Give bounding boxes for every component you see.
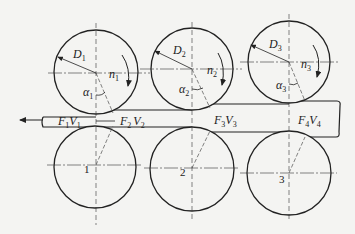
label-F4V4: F4V4: [297, 113, 321, 129]
label-F3V3: F3V3: [213, 113, 237, 129]
rolling-mill-diagram: D1 n1 α1 1 D2 n2 α2 2 D3 n3 α3 3: [0, 0, 355, 234]
lower-roll-1: [54, 126, 136, 208]
stand-3: D3 n3 α3 3: [240, 14, 338, 222]
stand-number-3: 3: [279, 173, 285, 185]
stand-number-1: 1: [84, 163, 90, 175]
stand-number-2: 2: [180, 166, 186, 178]
